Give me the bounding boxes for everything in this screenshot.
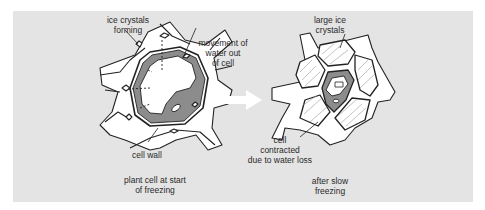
label-ice-crystals-forming: ice crystals forming	[100, 15, 156, 35]
right-cell-drawing	[272, 33, 395, 145]
caption-after-slow-freezing: after slow freezing	[300, 176, 360, 196]
label-large-ice-crystals: large ice crystals	[305, 15, 355, 35]
label-movement-of-water: movement of water out of cell	[193, 38, 253, 68]
label-cell-contracted: cell contracted due to water loss	[240, 135, 320, 165]
freezing-diagram	[0, 0, 485, 210]
caption-start-of-freezing: plant cell at start of freezing	[110, 175, 200, 195]
label-cell-wall: cell wall	[127, 150, 167, 160]
